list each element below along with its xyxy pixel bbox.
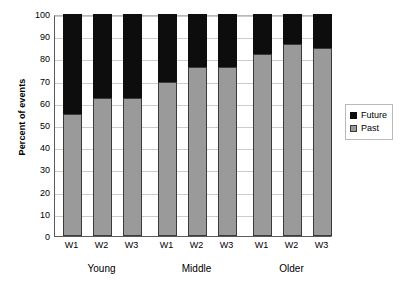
bar-young-w2 bbox=[93, 14, 112, 236]
bar-segment-future bbox=[158, 14, 177, 82]
plot-area bbox=[54, 15, 332, 237]
x-axis-tick-older-w1: W1 bbox=[249, 240, 275, 251]
bar-segment-past bbox=[253, 54, 272, 236]
bar-middle-w3 bbox=[218, 14, 237, 236]
bar-middle-w2 bbox=[188, 14, 207, 236]
x-axis-tick-older-w2: W2 bbox=[279, 240, 305, 251]
x-axis-tick-young-w1: W1 bbox=[59, 240, 85, 251]
x-axis-group-labels: YoungMiddleOlder bbox=[54, 263, 332, 279]
chart-legend: Future Past bbox=[345, 104, 393, 140]
bar-segment-past bbox=[188, 67, 207, 236]
bar-segment-future bbox=[188, 14, 207, 67]
legend-item-future: Future bbox=[350, 109, 387, 122]
y-axis-tick-20: 20 bbox=[18, 189, 50, 198]
y-axis-tick-70: 70 bbox=[18, 78, 50, 87]
bar-segment-future bbox=[283, 14, 302, 44]
bar-segment-past bbox=[123, 98, 142, 236]
x-axis-tick-young-w2: W2 bbox=[89, 240, 115, 251]
bar-segment-past bbox=[93, 98, 112, 236]
y-axis-tick-80: 80 bbox=[18, 55, 50, 64]
y-axis-tick-60: 60 bbox=[18, 100, 50, 109]
x-axis-tick-middle-w2: W2 bbox=[184, 240, 210, 251]
y-axis-tick-30: 30 bbox=[18, 166, 50, 175]
y-axis-tick-100: 100 bbox=[18, 11, 50, 20]
bar-segment-past bbox=[283, 44, 302, 236]
bar-older-w1 bbox=[253, 14, 272, 236]
bar-segment-past bbox=[218, 67, 237, 236]
bar-segment-future bbox=[313, 14, 332, 48]
bar-older-w2 bbox=[283, 14, 302, 236]
bar-segment-future bbox=[218, 14, 237, 67]
x-axis-tick-middle-w3: W3 bbox=[214, 240, 240, 251]
x-axis-tick-labels: W1W2W3W1W2W3W1W2W3 bbox=[54, 240, 332, 254]
legend-swatch-future-icon bbox=[350, 112, 357, 119]
bars-layer bbox=[55, 16, 331, 236]
legend-swatch-past-icon bbox=[350, 125, 357, 132]
bar-young-w1 bbox=[63, 14, 82, 236]
y-axis-tick-40: 40 bbox=[18, 144, 50, 153]
bar-segment-past bbox=[313, 48, 332, 236]
group-label-older: Older bbox=[252, 263, 332, 275]
bar-segment-future bbox=[63, 14, 82, 114]
bar-segment-past bbox=[158, 82, 177, 236]
y-axis-tick-50: 50 bbox=[18, 122, 50, 131]
bar-segment-past bbox=[63, 114, 82, 236]
legend-label-past: Past bbox=[361, 124, 379, 133]
group-label-young: Young bbox=[62, 263, 142, 275]
bar-older-w3 bbox=[313, 14, 332, 236]
x-axis-tick-young-w3: W3 bbox=[119, 240, 145, 251]
bar-segment-future bbox=[93, 14, 112, 98]
x-axis-tick-middle-w1: W1 bbox=[154, 240, 180, 251]
y-axis-tick-90: 90 bbox=[18, 33, 50, 42]
stacked-bar-chart: Percent of events 1009080706050403020100… bbox=[0, 0, 406, 295]
bar-young-w3 bbox=[123, 14, 142, 236]
bar-segment-future bbox=[253, 14, 272, 54]
x-axis-tick-older-w3: W3 bbox=[309, 240, 335, 251]
bar-segment-future bbox=[123, 14, 142, 98]
legend-item-past: Past bbox=[350, 122, 387, 135]
y-axis-tick-10: 10 bbox=[18, 211, 50, 220]
legend-label-future: Future bbox=[361, 111, 387, 120]
group-label-middle: Middle bbox=[157, 263, 237, 275]
y-axis-tick-0: 0 bbox=[18, 233, 50, 242]
bar-middle-w1 bbox=[158, 14, 177, 236]
y-axis-tick-labels: 1009080706050403020100 bbox=[18, 15, 50, 237]
